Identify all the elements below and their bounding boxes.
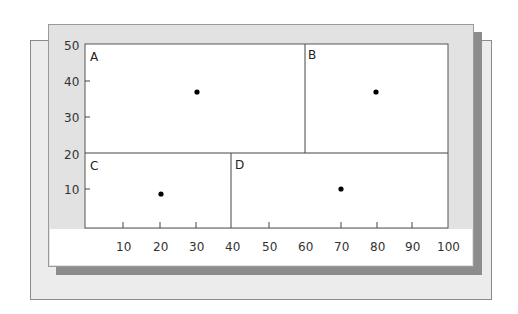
y-label-30: 30 <box>64 111 79 125</box>
point-c <box>158 191 163 196</box>
plot-area <box>85 44 448 228</box>
x-label-70: 70 <box>334 240 349 254</box>
point-b <box>373 89 378 94</box>
x-label-20: 20 <box>153 240 168 254</box>
x-label-80: 80 <box>370 240 385 254</box>
x-label-10: 10 <box>116 240 131 254</box>
point-d <box>338 186 343 191</box>
region-label-a: A <box>90 50 99 64</box>
y-label-50: 50 <box>64 39 79 53</box>
x-label-100: 100 <box>437 240 460 254</box>
region-label-d: D <box>235 158 244 172</box>
region-label-c: C <box>90 159 98 173</box>
y-axis-band <box>50 44 84 229</box>
y-label-20: 20 <box>64 148 79 162</box>
region-label-b: B <box>308 48 316 62</box>
region-diagram: 50 40 30 20 10 10 20 30 40 50 60 70 80 9… <box>0 0 518 314</box>
x-label-60: 60 <box>298 240 313 254</box>
x-label-90: 90 <box>405 240 420 254</box>
x-label-50: 50 <box>262 240 277 254</box>
x-label-40: 40 <box>225 240 240 254</box>
y-label-40: 40 <box>64 75 79 89</box>
y-label-10: 10 <box>64 183 79 197</box>
x-label-30: 30 <box>189 240 204 254</box>
point-a <box>194 89 199 94</box>
